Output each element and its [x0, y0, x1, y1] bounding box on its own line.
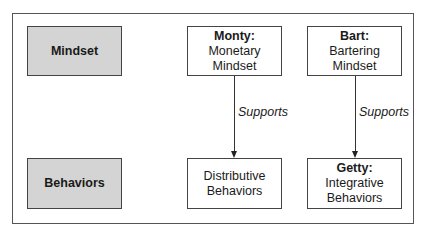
node-bart-line1: Bartering: [329, 44, 380, 59]
node-getty: Getty: Integrative Behaviors: [307, 158, 402, 209]
node-bart-line2: Mindset: [333, 59, 377, 74]
node-bart: Bart: Bartering Mindset: [307, 26, 402, 76]
node-distributive-line1: Distributive: [204, 169, 266, 184]
node-monty-line2: Mindset: [213, 59, 257, 74]
arrow-down-icon: [352, 151, 358, 158]
row-label-behaviors-text: Behaviors: [44, 176, 104, 191]
edge-monty-distributive-label: Supports: [238, 105, 288, 119]
node-distributive: Distributive Behaviors: [187, 158, 282, 209]
node-monty-line1: Monetary: [208, 44, 260, 59]
node-distributive-line2: Behaviors: [207, 184, 263, 199]
node-bart-title: Bart:: [340, 29, 369, 44]
arrow-down-icon: [231, 151, 237, 158]
edge-bart-getty-label: Supports: [359, 105, 409, 119]
node-getty-title: Getty:: [336, 161, 372, 176]
node-getty-line2: Behaviors: [327, 191, 383, 206]
row-label-behaviors: Behaviors: [27, 158, 122, 209]
node-monty-title: Monty:: [214, 29, 255, 44]
row-label-mindset-text: Mindset: [51, 44, 98, 59]
edge-bart-getty-line: [355, 76, 356, 152]
row-label-mindset: Mindset: [27, 26, 122, 76]
edge-monty-distributive-line: [234, 76, 235, 152]
node-getty-line1: Integrative: [325, 176, 383, 191]
node-monty: Monty: Monetary Mindset: [187, 26, 282, 76]
